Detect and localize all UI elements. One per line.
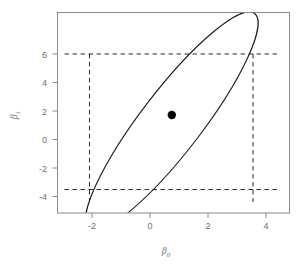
x-tick-label: 0 <box>147 221 152 231</box>
y-tick-label: 4 <box>42 78 47 88</box>
y-tick-label: 0 <box>42 135 47 145</box>
y-tick-label: -4 <box>39 192 47 202</box>
point-estimate-marker <box>168 111 176 119</box>
x-tick-label: 2 <box>205 221 210 231</box>
y-tick-label: 2 <box>42 107 47 117</box>
y-axis-title-subscript: 1 <box>14 111 22 115</box>
x-tick-label: -2 <box>88 221 96 231</box>
confidence-region-plot: 6 4 2 0 -2 -4 <box>0 0 303 271</box>
x-axis-title-subscript: 0 <box>167 251 171 259</box>
x-tick-label: 4 <box>263 221 268 231</box>
plot-canvas: 6 4 2 0 -2 -4 <box>0 0 303 271</box>
y-tick-label: 6 <box>42 50 47 60</box>
y-tick-label: -2 <box>39 164 47 174</box>
